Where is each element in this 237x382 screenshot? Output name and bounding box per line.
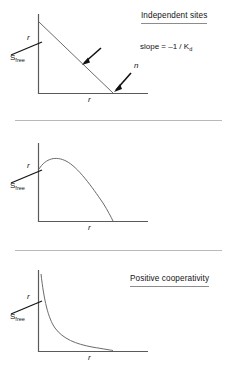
x-axis-label-negative: r [88, 353, 91, 362]
panel-positive-cooperativity: r Sfree r Positive cooperativity [0, 125, 237, 250]
y-axis-label-positive: r Sfree [10, 161, 46, 195]
y-axis-denominator: Sfree [10, 53, 25, 62]
data-curve-positive [39, 158, 113, 221]
y-axis-denominator-subscript: free [15, 316, 25, 322]
scatchard-plot-figure: r Sfree r slope = –1 / Kd n Independent … [0, 0, 237, 382]
y-axis-label-independent: r Sfree [10, 33, 46, 67]
slope-arrow-icon [82, 48, 101, 65]
panel-independent-sites: r Sfree r slope = –1 / Kd n Independent … [0, 0, 237, 122]
data-curve-negative [41, 274, 113, 351]
data-line-independent [39, 22, 113, 93]
panel-title-independent: Independent sites [141, 11, 207, 24]
y-axis-denominator: Sfree [10, 181, 25, 190]
intercept-arrow-icon [114, 73, 131, 92]
panel-divider-1 [15, 120, 222, 121]
x-axis-label-positive: r [88, 223, 91, 232]
annotation-n: n [134, 61, 138, 70]
panel-divider-2 [15, 250, 222, 251]
y-axis-denominator-subscript: free [15, 185, 25, 191]
panel-negative-cooperativity: r Sfree r Negative cooperativity [0, 252, 237, 382]
x-axis-label-independent: r [88, 95, 91, 104]
y-axis-label-negative: r Sfree [10, 292, 46, 326]
y-axis-denominator: Sfree [10, 312, 25, 321]
y-axis-denominator-subscript: free [15, 57, 25, 63]
annotation-slope: slope = –1 / Kd [140, 42, 192, 51]
annotation-slope-subscript: d [189, 46, 192, 52]
